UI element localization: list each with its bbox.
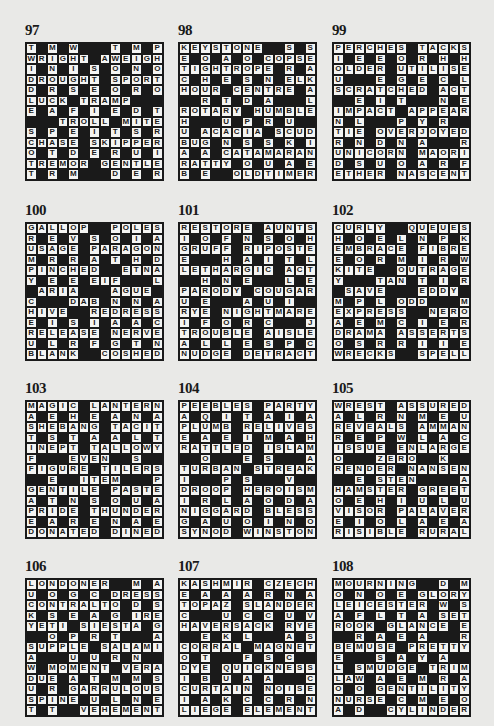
letter-square: G: [200, 64, 211, 75]
letter-square: A: [428, 43, 439, 54]
letter-square: D: [152, 527, 163, 538]
letter-square: J: [305, 318, 316, 329]
letter-square: L: [110, 695, 121, 706]
letter-square: V: [438, 506, 449, 517]
letter-square: E: [417, 75, 428, 86]
black-square: [253, 96, 264, 107]
letter-square: S: [386, 307, 397, 318]
letter-square: E: [221, 75, 232, 86]
letter-square: I: [232, 684, 243, 695]
black-square: [200, 117, 211, 128]
letter-square: U: [263, 106, 274, 117]
letter-square: R: [26, 234, 37, 245]
letter-square: O: [354, 621, 365, 632]
letter-square: D: [152, 255, 163, 266]
letter-square: U: [190, 138, 201, 149]
black-square: [179, 96, 190, 107]
letter-square: Y: [459, 590, 470, 601]
letter-square: T: [417, 265, 428, 276]
black-square: [449, 159, 460, 170]
black-square: [89, 464, 100, 475]
black-square: [89, 349, 100, 360]
letter-square: R: [79, 159, 90, 170]
black-square: [386, 674, 397, 685]
letter-square: N: [47, 600, 58, 611]
letter-square: I: [47, 318, 58, 329]
letter-square: A: [58, 527, 69, 538]
letter-square: S: [386, 349, 397, 360]
letter-square: M: [131, 43, 142, 54]
letter-square: R: [263, 117, 274, 128]
black-square: [417, 663, 428, 674]
letter-square: S: [295, 663, 306, 674]
letter-square: R: [200, 286, 211, 297]
letter-square: E: [459, 443, 470, 454]
black-square: [253, 611, 264, 622]
black-square: [121, 148, 132, 159]
letter-square: I: [58, 286, 69, 297]
letter-square: W: [459, 255, 470, 266]
letter-square: C: [295, 265, 306, 276]
letter-square: E: [47, 276, 58, 287]
letter-square: O: [305, 517, 316, 528]
letter-square: E: [37, 328, 48, 339]
letter-square: M: [274, 106, 285, 117]
letter-square: M: [274, 307, 285, 318]
letter-square: L: [284, 443, 295, 454]
black-square: [37, 412, 48, 423]
letter-square: N: [274, 600, 285, 611]
letter-square: U: [417, 496, 428, 507]
letter-square: E: [47, 159, 58, 170]
letter-square: R: [449, 590, 460, 601]
letter-square: R: [396, 485, 407, 496]
black-square: [37, 705, 48, 716]
letter-square: A: [47, 244, 58, 255]
black-square: [428, 318, 439, 329]
letter-square: A: [459, 517, 470, 528]
letter-square: O: [428, 127, 439, 138]
black-square: [152, 286, 163, 297]
black-square: [274, 674, 285, 685]
letter-square: T: [396, 600, 407, 611]
letter-square: T: [263, 307, 274, 318]
letter-square: E: [438, 695, 449, 706]
letter-square: S: [152, 307, 163, 318]
letter-square: S: [79, 328, 90, 339]
letter-square: E: [438, 106, 449, 117]
letter-square: I: [89, 318, 100, 329]
letter-square: D: [438, 705, 449, 716]
letter-square: S: [305, 506, 316, 517]
letter-square: D: [152, 349, 163, 360]
black-square: [428, 96, 439, 107]
letter-square: G: [26, 223, 37, 234]
black-square: [37, 454, 48, 465]
black-square: [253, 632, 264, 643]
letter-square: E: [263, 705, 274, 716]
black-square: [232, 475, 243, 486]
letter-square: V: [284, 475, 295, 486]
black-square: [449, 600, 460, 611]
letter-square: O: [200, 454, 211, 465]
letter-square: H: [211, 265, 222, 276]
black-square: [365, 255, 376, 266]
black-square: [386, 255, 397, 266]
letter-square: M: [131, 674, 142, 685]
letter-square: A: [121, 485, 132, 496]
letter-square: T: [428, 663, 439, 674]
letter-square: E: [131, 307, 142, 318]
black-square: [79, 106, 90, 117]
letter-square: F: [200, 318, 211, 329]
black-square: [232, 138, 243, 149]
letter-square: E: [47, 674, 58, 685]
letter-square: L: [284, 276, 295, 287]
letter-square: A: [365, 106, 376, 117]
black-square: [79, 276, 90, 287]
black-square: [100, 318, 111, 329]
letter-square: E: [253, 43, 264, 54]
letter-square: A: [152, 579, 163, 590]
letter-square: C: [438, 75, 449, 86]
letter-square: A: [110, 412, 121, 423]
letter-square: U: [459, 496, 470, 507]
letter-square: E: [131, 590, 142, 601]
letter-square: H: [179, 85, 190, 96]
